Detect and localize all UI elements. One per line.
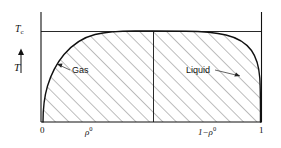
x-tick-label-one-minus-rho0-superscript: 0 [213, 125, 216, 132]
gas-region-label: Gas [72, 66, 89, 75]
x-tick-label-0: 0 [40, 126, 45, 135]
y-axis-label: T [14, 62, 20, 73]
x-tick-label-one-minus-rho0-base: 1−ρ [198, 127, 213, 137]
up-arrow-icon [18, 49, 24, 56]
critical-temperature-label: Tc [15, 24, 24, 36]
x-tick-label-one-minus-rho0: 1−ρ0 [198, 126, 216, 137]
liquid-region-label: Liquid [186, 66, 210, 75]
x-tick-label-rho0: ρ0 [85, 126, 93, 137]
critical-temperature-label-subscript: c [21, 28, 24, 36]
phase-diagram-figure: Tc T Gas Liquid 0 ρ0 1−ρ0 1 [0, 0, 281, 148]
x-tick-label-1: 1 [259, 126, 264, 135]
x-tick-label-rho0-superscript: 0 [89, 125, 92, 132]
